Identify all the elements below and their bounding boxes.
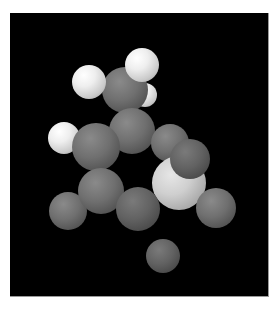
hydrogen-left-top-sphere [72, 65, 106, 99]
atom-far-right-sphere [196, 188, 236, 228]
hydrogen-top-sphere [125, 48, 159, 82]
atom-bottom-sphere [146, 239, 180, 273]
atom-right-front-sphere [170, 139, 210, 179]
carbon-bottom-center-sphere [116, 187, 160, 231]
molecule-viewport [10, 13, 269, 297]
carbon-left-sphere [72, 123, 120, 171]
